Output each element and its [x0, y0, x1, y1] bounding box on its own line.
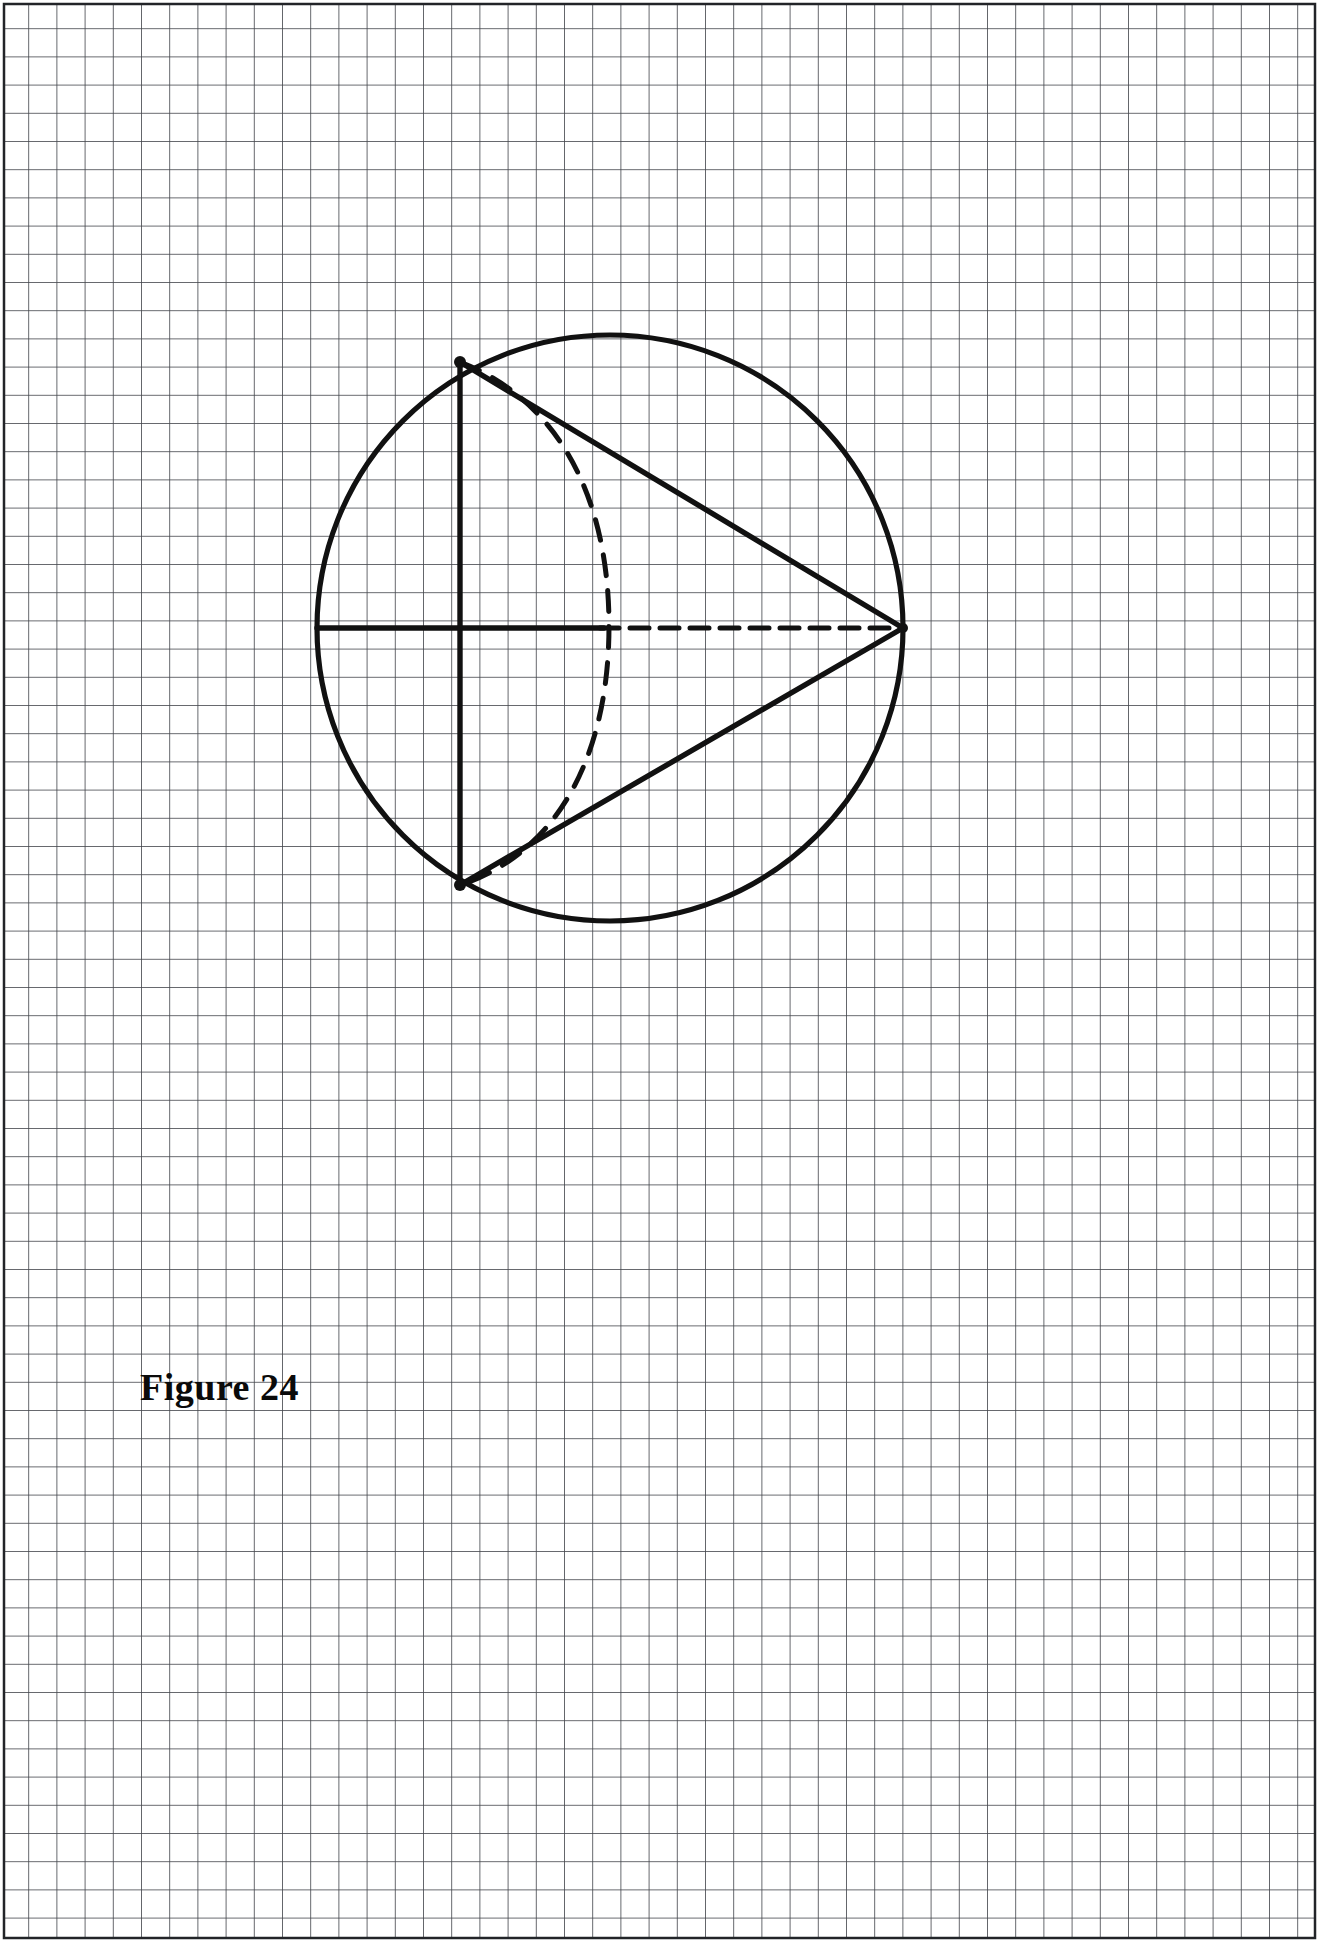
vertex-bottom-marker — [454, 879, 466, 891]
figure-caption: Figure 24 — [140, 1368, 299, 1406]
apex-marker — [898, 623, 908, 633]
vertex-top-marker — [454, 356, 466, 368]
figure-page: Figure 24 — [0, 0, 1319, 1942]
figure-canvas — [0, 0, 1319, 1942]
graph-grid — [4, 4, 1315, 1938]
